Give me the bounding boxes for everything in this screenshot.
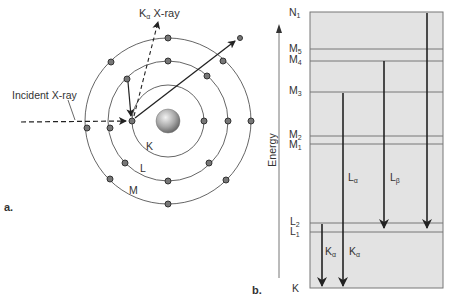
atom-diagram: Incident X-ray Kα X-ray K L M a.	[4, 7, 254, 213]
panel-a-label: a.	[4, 201, 13, 213]
energy-axis-label: Energy	[266, 133, 278, 167]
level-label-k: K	[292, 282, 299, 294]
level-label-m3: M3	[289, 84, 302, 97]
panel-b-label: b.	[252, 284, 262, 296]
nucleus	[156, 109, 180, 133]
kalpha-xray-label: Kα X-ray	[139, 7, 180, 20]
incident-leader-line	[68, 100, 75, 120]
level-labels: N1 M5 M4 M3 M2 M1 L2 L1 K	[289, 6, 302, 294]
level-label-n1: N1	[289, 6, 301, 19]
shell-m-label: M	[129, 184, 138, 196]
electron-transition-arrow	[128, 82, 131, 116]
xray-fluorescence-diagram: Incident X-ray Kα X-ray K L M a. Energy …	[0, 0, 450, 298]
shell-l-label: L	[140, 162, 146, 174]
energy-level-diagram: Energy N1 M5 M4 M3 M2 M1 L2 L1 K	[252, 6, 443, 296]
energy-axis-arrowhead	[276, 24, 282, 33]
shell-k-label: K	[146, 140, 153, 152]
incident-xray-label: Incident X-ray	[12, 89, 78, 101]
incident-xray-arrow	[21, 121, 126, 122]
